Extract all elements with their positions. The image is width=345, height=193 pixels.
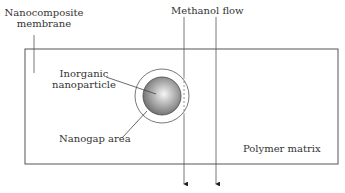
particle-label-line2: nanoparticle (52, 79, 116, 90)
particle-label-line1: Inorganic (52, 68, 116, 79)
membrane-label: Nanocomposite membrane (4, 7, 84, 29)
inorganic-nanoparticle (143, 77, 181, 115)
nanogap-label: Nanogap area (59, 133, 131, 144)
particle-label: Inorganic nanoparticle (52, 68, 116, 90)
membrane-label-line1: Nanocomposite (4, 7, 84, 18)
nanocomposite-membrane-diagram: Nanocomposite membrane Methanol flow Ino… (0, 0, 345, 193)
polymer-matrix-label: Polymer matrix (243, 143, 321, 154)
membrane-label-line2: membrane (4, 18, 84, 29)
methanol-flow-label: Methanol flow (171, 5, 244, 16)
